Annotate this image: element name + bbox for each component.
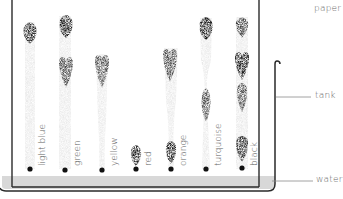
dot-light-blue [27, 166, 32, 171]
strip-label-yellow: yellow [109, 137, 119, 166]
tank-label: tank [315, 90, 336, 100]
dot-green [62, 167, 67, 172]
strip-label-black: black [249, 142, 259, 166]
dot-black [239, 165, 244, 170]
dot-yellow [99, 167, 104, 172]
chromatography-diagram: paper tank water light blue green yellow… [0, 0, 343, 199]
dot-orange [168, 166, 173, 171]
strip-label-green: green [72, 140, 82, 166]
paper-label: paper [314, 3, 341, 13]
water-label: water [316, 174, 343, 184]
strip-label-orange: orange [178, 135, 188, 166]
callout-lines [272, 97, 313, 181]
dot-turquoise [203, 166, 208, 171]
strip-label-light-blue: light blue [37, 124, 47, 166]
dot-red [133, 166, 138, 171]
diagram-canvas [0, 0, 343, 199]
strip-label-red: red [143, 151, 153, 166]
strip-label-turquoise: turquoise [213, 124, 223, 166]
